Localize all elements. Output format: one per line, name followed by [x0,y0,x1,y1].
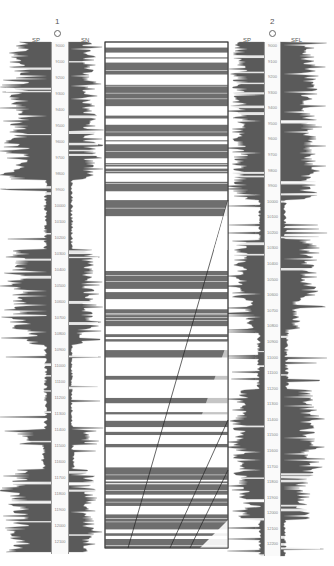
depth-label: 9200 [52,76,68,80]
depth-label: 12100 [52,540,68,544]
depth-label: 11200 [265,387,280,391]
depth-label: 9600 [265,137,280,141]
depth-label: 10100 [52,220,68,224]
depth-label: 11300 [265,402,280,406]
depth-label: 11600 [52,460,68,464]
depth-label: 12100 [265,527,280,531]
depth-label: 9300 [52,92,68,96]
depth-label: 10300 [265,246,280,250]
depth-label: 12000 [265,511,280,515]
well-1-depth-track: 9000910092009300940095009600970098009900… [51,42,69,554]
depth-label: 10500 [52,284,68,288]
depth-label: 10000 [52,204,68,208]
depth-label: 11100 [265,371,280,375]
depth-label: 11100 [52,380,68,384]
depth-label: 9700 [265,153,280,157]
depth-label: 9400 [52,108,68,112]
depth-label: 10900 [265,340,280,344]
depth-label: 12000 [52,524,68,528]
depth-label: 11800 [52,492,68,496]
depth-label: 10900 [52,348,68,352]
depth-label: 9600 [52,140,68,144]
depth-label: 9900 [265,184,280,188]
depth-label: 10700 [52,316,68,320]
depth-label: 11000 [52,364,68,368]
depth-label: 9300 [265,91,280,95]
depth-label: 9000 [52,44,68,48]
depth-label: 11400 [52,428,68,432]
depth-label: 9700 [52,156,68,160]
depth-label: 11500 [52,444,68,448]
depth-label: 9000 [265,44,280,48]
depth-label: 11700 [265,465,280,469]
depth-label: 9500 [265,122,280,126]
depth-label: 11200 [52,396,68,400]
depth-label: 11300 [52,412,68,416]
depth-label: 11400 [265,418,280,422]
depth-label: 9200 [265,75,280,79]
depth-label: 11900 [265,496,280,500]
depth-label: 10700 [265,309,280,313]
depth-label: 10400 [265,262,280,266]
depth-label: 10200 [52,236,68,240]
depth-label: 9500 [52,124,68,128]
depth-label: 10100 [265,215,280,219]
depth-label: 10600 [265,293,280,297]
depth-label: 11600 [265,449,280,453]
depth-label: 10300 [52,252,68,256]
depth-label: 11500 [265,433,280,437]
depth-label: 10200 [265,231,280,235]
depth-label: 10800 [52,332,68,336]
well-2-depth-track: 9000910092009300940095009600970098009900… [264,42,281,556]
depth-label: 10800 [265,324,280,328]
depth-label: 10400 [52,268,68,272]
depth-label: 9400 [265,106,280,110]
depth-label: 10600 [52,300,68,304]
depth-label: 11800 [265,480,280,484]
depth-label: 9100 [265,60,280,64]
depth-label: 9800 [52,172,68,176]
depth-label: 11700 [52,476,68,480]
depth-label: 12200 [265,542,280,546]
depth-label: 9100 [52,60,68,64]
depth-label: 10500 [265,278,280,282]
depth-label: 11900 [52,508,68,512]
depth-label: 11000 [265,356,280,360]
depth-label: 9900 [52,188,68,192]
depth-label: 9800 [265,169,280,173]
depth-label: 10000 [265,200,280,204]
